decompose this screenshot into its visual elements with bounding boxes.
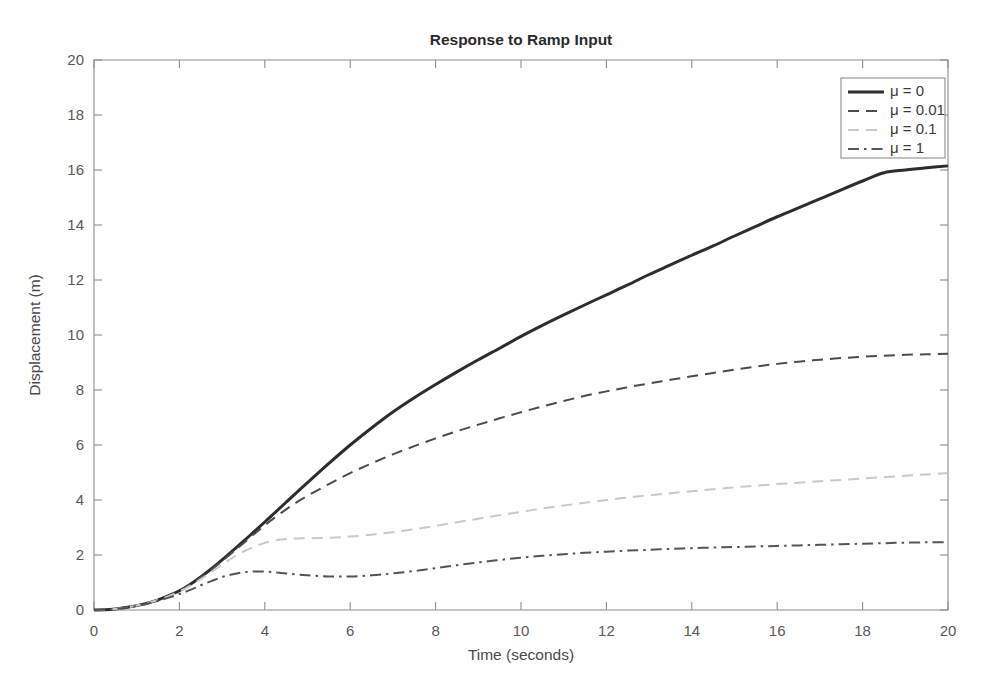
figure-canvas: Response to Ramp Input 02468101214161820…	[0, 0, 1006, 689]
y-tick-label: 10	[67, 326, 84, 343]
y-tick-label: 12	[67, 271, 84, 288]
x-tick-label: 4	[261, 622, 269, 639]
x-tick-label: 12	[598, 622, 615, 639]
y-axis-ticks: 02468101214161820	[67, 51, 948, 618]
y-tick-label: 18	[67, 106, 84, 123]
y-tick-label: 4	[76, 491, 84, 508]
y-tick-label: 8	[76, 381, 84, 398]
chart-legend[interactable]: μ = 0μ = 0.01μ = 0.1μ = 1	[841, 78, 945, 158]
y-tick-label: 6	[76, 436, 84, 453]
x-tick-label: 16	[769, 622, 786, 639]
x-tick-label: 6	[346, 622, 354, 639]
x-tick-label: 18	[854, 622, 871, 639]
x-tick-label: 14	[683, 622, 700, 639]
chart-plot-area: Response to Ramp Input 02468101214161820…	[0, 0, 1006, 689]
y-axis-title: Displacement (m)	[26, 274, 43, 395]
y-tick-label: 16	[67, 161, 84, 178]
legend-label-mu-0: μ = 0	[890, 82, 924, 99]
x-tick-label: 20	[940, 622, 957, 639]
x-tick-label: 2	[175, 622, 183, 639]
x-axis-ticks: 02468101214161820	[90, 60, 957, 639]
y-tick-label: 14	[67, 216, 84, 233]
y-tick-label: 0	[76, 601, 84, 618]
series-line-mu-0	[94, 166, 948, 610]
y-tick-label: 2	[76, 546, 84, 563]
legend-label-mu-1: μ = 1	[890, 139, 924, 156]
legend-label-mu-0-1: μ = 0.1	[890, 120, 937, 137]
y-tick-label: 20	[67, 51, 84, 68]
x-tick-label: 0	[90, 622, 98, 639]
x-tick-label: 8	[431, 622, 439, 639]
series-line-mu-0-1	[94, 473, 948, 610]
x-tick-label: 10	[513, 622, 530, 639]
x-axis-title: Time (seconds)	[468, 646, 574, 663]
series-line-mu-1	[94, 542, 948, 610]
data-series-group	[94, 166, 948, 610]
chart-title: Response to Ramp Input	[430, 31, 613, 48]
legend-label-mu-0-01: μ = 0.01	[890, 101, 945, 118]
